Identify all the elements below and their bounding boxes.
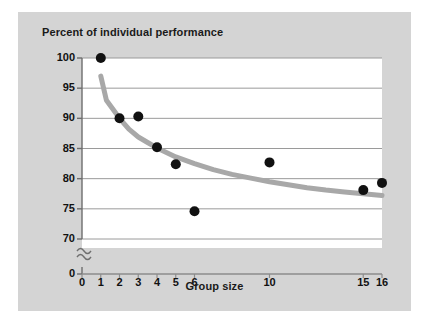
y-tick-label: 90: [47, 111, 75, 123]
data-point: [152, 142, 162, 152]
data-point: [377, 178, 387, 188]
data-point: [96, 53, 106, 63]
y-tick-label: 85: [47, 142, 75, 154]
x-axis-title: Group size: [18, 280, 411, 292]
y-tick-label: 95: [47, 81, 75, 93]
data-point: [115, 113, 125, 123]
y-tick-label: 100: [47, 51, 75, 63]
data-point: [265, 157, 275, 167]
scatter-plot: [18, 12, 411, 311]
y-tick-label: 70: [47, 232, 75, 244]
data-point: [171, 159, 181, 169]
plot-area-background: [82, 58, 382, 248]
y-tick-label: 80: [47, 172, 75, 184]
y-tick-marks: [77, 58, 82, 274]
y-axis-break-icon: [77, 249, 91, 260]
data-point: [133, 112, 143, 122]
data-point: [190, 206, 200, 216]
data-point: [358, 185, 368, 195]
chart-figure: Percent of individual performance 070758…: [18, 12, 411, 311]
y-tick-label: 75: [47, 202, 75, 214]
